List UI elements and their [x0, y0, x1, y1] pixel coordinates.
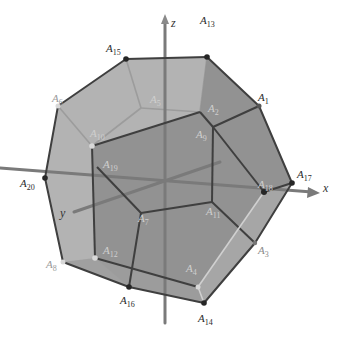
y-axis-label: y: [59, 206, 66, 220]
vertex-a14: [201, 300, 207, 306]
figure-canvas: z x y A15: [0, 0, 346, 337]
label-a20: A20: [19, 177, 35, 192]
vertex-a3: [253, 241, 257, 245]
label-a3: A3: [257, 244, 269, 259]
z-axis-label: z: [170, 16, 176, 30]
label-a8: A8: [45, 258, 57, 273]
vertex-a12: [92, 255, 98, 261]
label-a17: A17: [296, 168, 312, 183]
label-a16: A16: [119, 294, 135, 309]
vertex-a13: [204, 54, 210, 60]
label-a15: A15: [105, 42, 121, 57]
vertex-a8: [61, 260, 66, 265]
vertex-a20: [42, 175, 48, 181]
vertex-a15: [123, 56, 129, 62]
vertex-a17: [289, 180, 295, 186]
x-axis-arrow-icon: [307, 187, 320, 198]
vertex-a4: [196, 285, 201, 290]
dodecahedron-figure: z x y A15: [0, 0, 346, 337]
x-axis-label: x: [322, 181, 329, 195]
vertex-a10: [89, 143, 95, 149]
vertex-a1: [257, 104, 262, 109]
vertex-a16: [126, 284, 132, 290]
label-a14: A14: [197, 312, 213, 327]
label-a13: A13: [199, 14, 215, 29]
z-axis-arrow-icon: [161, 14, 169, 24]
